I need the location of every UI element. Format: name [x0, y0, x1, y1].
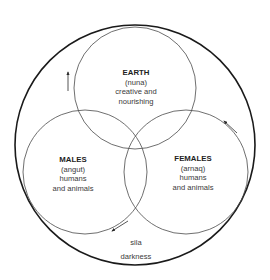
males-native-term: (angut) [53, 165, 94, 175]
earth-native-term: (nuna) [115, 78, 156, 88]
females-label: FEMALES (arnaq) humans and animals [173, 154, 214, 192]
females-native-term: (arnaq) [173, 164, 214, 174]
earth-description-line1: creative and [115, 87, 156, 97]
bottom-arrow-icon [112, 221, 128, 231]
darkness-label: darkness [121, 252, 152, 261]
males-label: MALES (angut) humans and animals [53, 155, 94, 193]
earth-label: EARTH (nuna) creative and nourishing [115, 68, 156, 106]
males-description-line1: humans [53, 174, 94, 184]
outer-circle-sila [15, 25, 255, 265]
sila-label: sila [130, 238, 141, 247]
females-title: FEMALES [173, 154, 214, 164]
earth-title: EARTH [115, 68, 156, 78]
males-title: MALES [53, 155, 94, 165]
earth-description-line2: nourishing [115, 97, 156, 107]
females-description-line2: and animals [173, 183, 214, 193]
right-arrow-icon [224, 121, 237, 133]
females-description-line1: humans [173, 173, 214, 183]
males-description-line2: and animals [53, 184, 94, 194]
